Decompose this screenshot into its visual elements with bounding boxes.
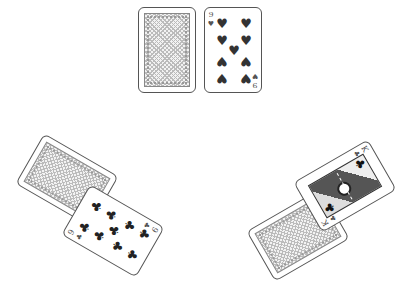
king-portrait [308, 154, 382, 219]
heart-icon: ♥ [239, 34, 253, 48]
heart-icon: ♥ [215, 54, 229, 68]
heart-icon: ♥ [239, 71, 253, 85]
heart-icon: ♥ [239, 54, 253, 68]
heart-icon: ♥ [215, 17, 229, 31]
heart-icon: ♥ [239, 17, 253, 31]
north-card-back[interactable] [138, 7, 196, 93]
heart-icon: ♥ [207, 20, 215, 28]
card-table: 9 ♥ 9 ♥ ♥ ♥ ♥ ♥ ♥ ♥ ♥ ♥ ♥ 9 ♣ 9 ♣ ♣ ♣ ♣ … [0, 0, 420, 297]
north-card-9-hearts[interactable]: 9 ♥ 9 ♥ ♥ ♥ ♥ ♥ ♥ ♥ ♥ ♥ ♥ [204, 7, 262, 93]
card-index-top: 9 ♥ [207, 11, 215, 28]
heart-icon: ♥ [215, 71, 229, 85]
card-back-pattern [144, 13, 190, 87]
rank-label: 9 [207, 11, 215, 19]
